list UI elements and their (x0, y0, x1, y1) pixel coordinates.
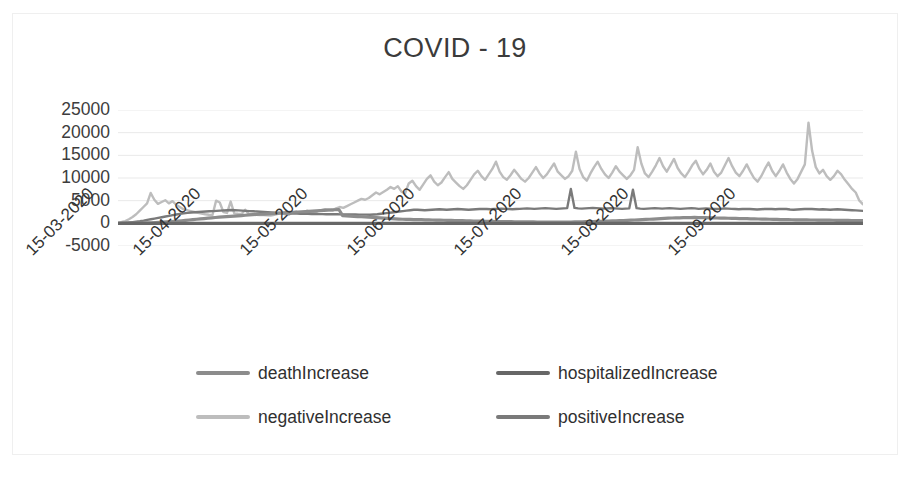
y-axis-tick-label: 10000 (24, 169, 110, 186)
y-axis-tick-label: 15000 (24, 146, 110, 163)
legend-label: hospitalizedIncrease (558, 363, 718, 384)
legend-swatch-icon (496, 415, 550, 419)
x-axis: 15-03-202015-04-202015-05-202015-06-2020… (0, 240, 910, 350)
legend-item-positiveIncrease[interactable]: positiveIncrease (496, 404, 684, 430)
legend-item-negativeIncrease[interactable]: negativeIncrease (196, 404, 391, 430)
legend-label: negativeIncrease (258, 407, 391, 428)
legend-swatch-icon (196, 371, 250, 375)
legend-item-hospitalizedIncrease[interactable]: hospitalizedIncrease (496, 360, 718, 386)
chart-screenshot: COVID - 19 2500020000150001000050000-500… (0, 0, 910, 477)
legend-swatch-icon (196, 415, 250, 419)
legend-item-deathIncrease[interactable]: deathIncrease (196, 360, 369, 386)
legend-label: deathIncrease (258, 363, 369, 384)
legend-swatch-icon (496, 371, 550, 375)
legend-label: positiveIncrease (558, 407, 684, 428)
chart-title: COVID - 19 (0, 33, 910, 64)
chart-legend: deathIncreasehospitalizedIncreasenegativ… (196, 358, 756, 438)
y-axis-tick-label: 20000 (24, 124, 110, 141)
y-axis-tick-label: 25000 (24, 101, 110, 118)
